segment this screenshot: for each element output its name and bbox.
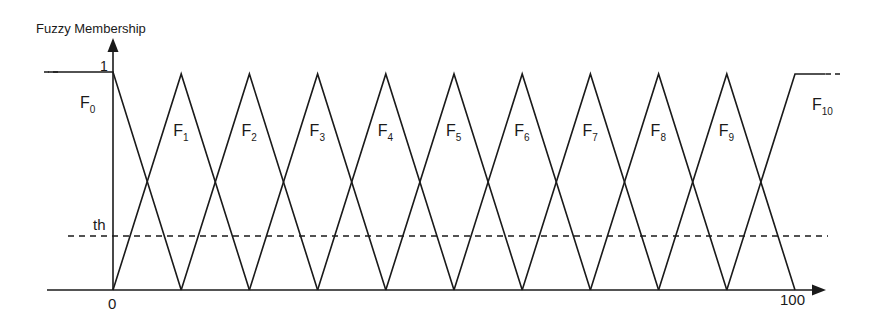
membership-f2 (181, 74, 317, 290)
label-f4: F4 (378, 122, 394, 143)
label-f9: F9 (719, 122, 735, 143)
label-f10: F10 (812, 96, 833, 117)
axes (47, 38, 826, 296)
y-axis-label: Fuzzy Membership (36, 21, 146, 36)
label-f5: F5 (446, 122, 462, 143)
y-axis-arrow-icon (108, 38, 119, 52)
membership-functions (48, 72, 825, 290)
x-tick-100: 100 (780, 291, 805, 308)
membership-f0 (48, 72, 181, 290)
membership-f9 (659, 74, 795, 290)
membership-f6 (454, 74, 590, 290)
membership-f3 (249, 74, 385, 290)
x-axis-arrow-icon (812, 285, 826, 296)
label-f2: F2 (241, 122, 257, 143)
threshold-label: th (93, 216, 106, 233)
y-tick-1: 1 (100, 58, 108, 74)
label-f1: F1 (173, 122, 189, 143)
membership-f7 (522, 74, 658, 290)
function-labels: F0F1F2F3F4F5F6F7F8F9F10 (80, 94, 833, 143)
label-f0: F0 (80, 94, 96, 115)
label-f7: F7 (582, 122, 598, 143)
membership-f8 (590, 74, 726, 290)
fuzzy-membership-chart: Fuzzy Membership 1 th 0 100 F0F1F2F3F4F5… (0, 0, 884, 325)
label-f6: F6 (514, 122, 530, 143)
label-f3: F3 (310, 122, 326, 143)
membership-f10 (727, 74, 826, 290)
dashed-extensions (44, 72, 842, 74)
membership-f4 (318, 74, 454, 290)
label-f8: F8 (651, 122, 667, 143)
membership-f5 (386, 74, 522, 290)
x-tick-0: 0 (108, 295, 116, 312)
membership-f1 (113, 74, 249, 290)
